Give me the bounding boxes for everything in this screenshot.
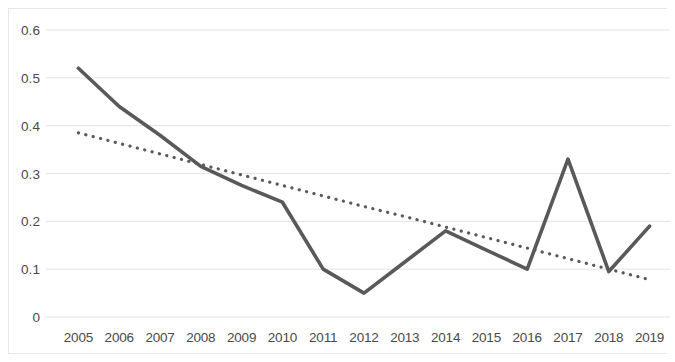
data-series-layer (78, 68, 649, 293)
x-tick-label: 2016 (507, 330, 548, 356)
x-tick-label: 2010 (262, 330, 303, 356)
trendline-path (78, 133, 649, 280)
gridlines (46, 30, 670, 317)
x-tick-label: 2013 (384, 330, 425, 356)
x-tick-label: 2011 (303, 330, 344, 356)
x-tick-label: 2015 (466, 330, 507, 356)
x-tick-label: 2008 (180, 330, 221, 356)
x-tick-label: 2006 (99, 330, 140, 356)
x-tick-label: 2014 (425, 330, 466, 356)
x-tick-label: 2009 (221, 330, 262, 356)
x-tick-label: 2005 (58, 330, 99, 356)
line-chart: 0.60.50.40.30.20.10 20052006200720082009… (0, 0, 675, 362)
x-tick-label: 2017 (548, 330, 589, 356)
x-tick-label: 2018 (588, 330, 629, 356)
x-tick-label: 2019 (629, 330, 670, 356)
x-axis: 2005200620072008200920102011201220132014… (58, 330, 670, 356)
data-line-path (78, 68, 649, 293)
x-tick-label: 2007 (140, 330, 181, 356)
plot-area (0, 0, 675, 362)
x-tick-label: 2012 (344, 330, 385, 356)
